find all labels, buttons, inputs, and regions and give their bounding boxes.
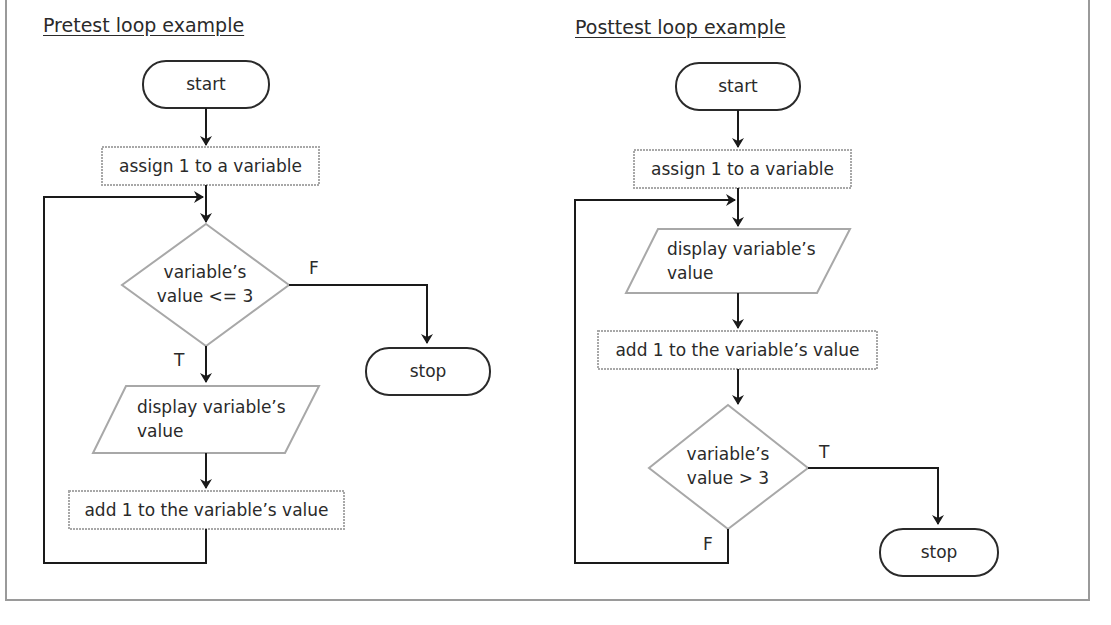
pretest-title: Pretest loop example (43, 14, 244, 36)
pretest-stop-label: stop (366, 360, 490, 382)
posttest-display-line1: display variable’s (667, 238, 816, 260)
posttest-add-label: add 1 to the variable’s value (598, 339, 877, 361)
posttest-assign-label: assign 1 to a variable (634, 158, 851, 180)
posttest-decision-line1: variable’s (668, 443, 788, 465)
posttest-display-line2: value (667, 262, 713, 284)
pretest-add-label: add 1 to the variable’s value (69, 499, 344, 521)
posttest-false-label: F (703, 533, 713, 555)
pretest-start-label: start (143, 73, 269, 95)
pretest-true-label: T (174, 349, 184, 371)
pretest-false-branch (289, 285, 427, 343)
pretest-display-line2: value (137, 420, 183, 442)
pretest-decision-line2: value <= 3 (140, 285, 270, 307)
pretest-display-line1: display variable’s (137, 396, 286, 418)
pretest-assign-label: assign 1 to a variable (102, 155, 319, 177)
posttest-true-label: T (819, 441, 829, 463)
posttest-decision-line2: value > 3 (668, 467, 788, 489)
pretest-decision-line1: variable’s (140, 261, 270, 283)
pretest-false-label: F (309, 257, 319, 279)
posttest-start-label: start (676, 75, 800, 97)
posttest-true-branch (808, 468, 938, 524)
posttest-title: Posttest loop example (575, 16, 786, 38)
posttest-stop-label: stop (880, 541, 998, 563)
